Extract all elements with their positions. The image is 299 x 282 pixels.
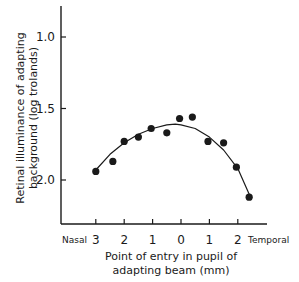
x-tick-label: 0 [177,233,185,247]
data-point [220,139,227,146]
data-point [148,125,155,132]
x-tick-label: 3 [92,233,100,247]
fitted-curve [96,124,249,194]
data-point [121,138,128,145]
data-point [204,138,211,145]
data-point [233,164,240,171]
data-point [109,158,116,165]
axis-labels: 1.01.52.0321012NasalTemporalPoint of ent… [14,30,289,277]
axes [61,6,267,224]
x-tick-label: 2 [120,233,128,247]
y-tick-label: 1.0 [36,30,55,44]
data-point [176,115,183,122]
y-axis-title-line1: Retinal illuminance of adapting [14,32,27,203]
data-point [189,113,196,120]
data-point [163,129,170,136]
x-axis-title-line2: adapting beam (mm) [113,264,230,277]
x-side-label-temporal: Temporal [247,235,289,245]
chart: 1.01.52.0321012NasalTemporalPoint of ent… [0,0,299,282]
curve-path [96,124,249,194]
x-tick-label: 1 [206,233,214,247]
x-axis-title-line1: Point of entry in pupil of [105,250,238,263]
data-point [246,194,253,201]
x-tick-label: 1 [149,233,157,247]
y-axis-title-line2: background (log trolands) [27,47,40,189]
y-axis-title: Retinal illuminance of adaptingbackgroun… [14,32,40,203]
x-tick-label: 2 [234,233,242,247]
x-side-label-nasal: Nasal [62,235,87,245]
data-point [92,168,99,175]
data-point [135,134,142,141]
